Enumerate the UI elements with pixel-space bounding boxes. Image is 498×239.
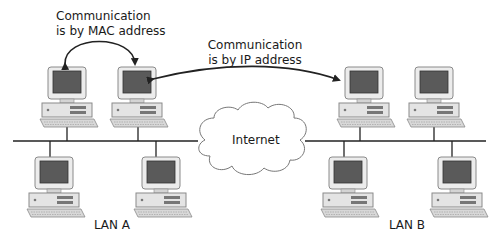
lan-b-label: LAN B	[387, 218, 427, 233]
computer-icon	[430, 157, 488, 217]
computer-icon	[407, 67, 465, 127]
computer-icon	[110, 67, 168, 127]
lan-a-label: LAN A	[92, 218, 132, 233]
ip-annotation: Communication is by IP address	[200, 38, 310, 68]
mac-annotation: Communication is by MAC address	[56, 9, 146, 39]
mac-arrow	[65, 42, 135, 65]
computer-icon	[321, 157, 379, 217]
computer-icon	[27, 157, 85, 217]
computer-icon	[40, 67, 98, 127]
internet-label: Internet	[232, 133, 272, 148]
ip-arrow	[153, 66, 339, 80]
computer-icon	[337, 67, 395, 127]
computer-icon	[134, 157, 192, 217]
